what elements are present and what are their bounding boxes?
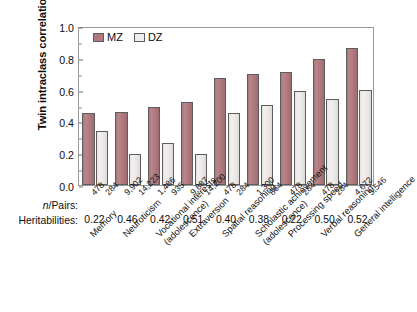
y-axis-minor-tick-mark [79, 171, 82, 172]
y-axis-tick-label: 0.6 [0, 86, 79, 98]
y-axis-tick-label: 0.4 [0, 117, 79, 129]
npairs-row-label: n/Pairs: [0, 200, 78, 211]
legend-label-mz: MZ [107, 31, 123, 43]
bar-mz [115, 112, 127, 185]
y-axis-minor-tick-mark [79, 107, 82, 108]
legend-item-dz: DZ [134, 31, 163, 43]
bar-dz [96, 131, 108, 185]
plot-area: MZ DZ 0.00.20.40.60.81.0 [78, 27, 374, 186]
bar-dz [228, 113, 240, 185]
bar-dz [261, 105, 273, 185]
legend-swatch-dz-icon [134, 33, 145, 42]
y-axis-tick-label: 1.0 [0, 22, 79, 34]
bar-mz [181, 102, 193, 185]
y-axis-tick-mark [79, 91, 83, 92]
legend-item-mz: MZ [93, 31, 123, 43]
y-axis-tick-mark [79, 28, 83, 29]
bar-mz [346, 48, 358, 185]
y-axis-minor-tick-mark [79, 75, 82, 76]
bar-dz [359, 90, 371, 185]
y-axis-tick-mark [79, 59, 83, 60]
y-axis-minor-tick-mark [79, 43, 82, 44]
bar-mz [280, 72, 292, 185]
y-axis-tick-mark [79, 187, 83, 188]
y-axis-tick-label: 0.2 [0, 149, 79, 161]
chart-legend: MZ DZ [93, 31, 163, 43]
bar-mz [82, 113, 94, 185]
bar-dz [294, 91, 306, 185]
heritabilities-row-label: Heritabilities: [0, 215, 78, 226]
legend-label-dz: DZ [148, 31, 163, 43]
y-axis-tick-label: 0.0 [0, 181, 79, 193]
bar-mz [214, 78, 226, 185]
bar-mz [247, 74, 259, 185]
y-axis-tick-label: 0.8 [0, 54, 79, 66]
y-axis-minor-tick-mark [79, 139, 82, 140]
legend-swatch-mz-icon [93, 33, 104, 42]
